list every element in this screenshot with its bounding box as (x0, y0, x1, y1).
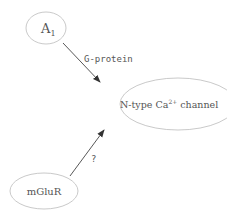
edge-label-g-protein: G-protein (84, 54, 133, 64)
edge-mglur-to-channel: ? (70, 130, 104, 176)
node-mglur-label: mGluR (27, 186, 62, 197)
node-a1[interactable]: A1 (26, 12, 66, 44)
edge-mglur-to-channel-arrow (70, 130, 104, 176)
edge-label-question: ? (91, 154, 96, 164)
node-channel-label: N-type Ca2+ channel (120, 98, 218, 110)
node-n-type-ca-channel[interactable]: N-type Ca2+ channel (120, 78, 227, 130)
pathway-diagram: A1 N-type Ca2+ channel mGluR G-protein ? (0, 0, 227, 218)
node-mglur[interactable]: mGluR (10, 173, 78, 209)
edge-a1-to-channel: G-protein (63, 43, 133, 82)
node-a1-label: A1 (40, 21, 55, 38)
